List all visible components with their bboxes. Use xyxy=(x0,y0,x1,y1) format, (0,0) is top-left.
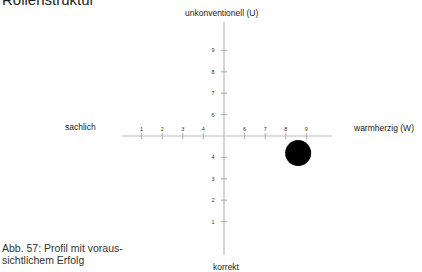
caption-line-2: sichtlichem Erfolg xyxy=(2,254,172,266)
figure-caption: Abb. 57: Profil mit voraus- sichtlichem … xyxy=(2,242,172,266)
x-tick-label: 4 xyxy=(202,126,205,132)
x-tick-label: 9 xyxy=(305,126,308,132)
x-tick-label: 3 xyxy=(181,126,184,132)
y-tick-label: 9 xyxy=(211,47,214,53)
y-tick-label: 4 xyxy=(211,154,214,160)
x-tick-label: 7 xyxy=(264,126,267,132)
x-tick-label: 6 xyxy=(243,126,246,132)
caption-line-1: Abb. 57: Profil mit voraus- xyxy=(2,242,172,254)
x-tick-label: 2 xyxy=(161,126,164,132)
profile-marker xyxy=(285,140,311,166)
y-tick-label: 7 xyxy=(211,90,214,96)
x-tick-label: 8 xyxy=(284,126,287,132)
y-tick-label: 6 xyxy=(211,112,214,118)
y-tick-label: 2 xyxy=(211,197,214,203)
y-tick-label: 8 xyxy=(211,69,214,75)
x-tick-label: 1 xyxy=(140,126,143,132)
y-tick-label: 3 xyxy=(211,176,214,182)
y-tick-label: 1 xyxy=(211,219,214,225)
